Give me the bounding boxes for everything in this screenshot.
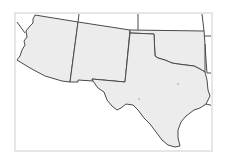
city-marker-san-angelo-icon <box>138 98 140 100</box>
city-marker-dallas-icon <box>177 83 179 85</box>
border-utah-colorado <box>78 14 79 22</box>
state-arizona[interactable] <box>17 15 78 82</box>
map-canvas <box>0 0 228 164</box>
state-new-mexico[interactable] <box>70 22 130 82</box>
border-louisiana <box>206 104 214 106</box>
border-kansas-missouri <box>202 14 204 31</box>
border-california-nevada <box>17 22 25 33</box>
